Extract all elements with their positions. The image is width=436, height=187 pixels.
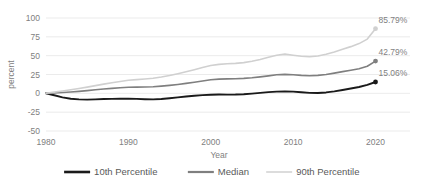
- x-axis-ticks: 19801990200020102020: [37, 137, 386, 147]
- series-end-marker-1: [373, 59, 378, 64]
- gridlines: [46, 18, 410, 131]
- series-line-0: [46, 82, 376, 100]
- y-tick-label: 0: [35, 88, 40, 98]
- series-data-label-1: 42.79%: [379, 47, 408, 57]
- y-tick-label: 100: [26, 13, 40, 23]
- x-tick-label: 2020: [366, 137, 385, 147]
- y-tick-label: -25: [28, 107, 41, 117]
- series-end-labels: 15.06%42.79%85.79%: [379, 15, 408, 78]
- y-tick-label: 50: [31, 51, 41, 61]
- series-data-label-2: 85.79%: [379, 15, 408, 25]
- chart-container: 1007550250-25-50 19801990200020102020 15…: [0, 0, 436, 187]
- y-axis-ticks: 1007550250-25-50: [26, 13, 40, 136]
- legend-label-0[interactable]: 10th Percentile: [94, 166, 157, 177]
- series-line-2: [46, 29, 376, 94]
- x-tick-label: 2000: [201, 137, 220, 147]
- series-lines: [46, 29, 376, 100]
- legend-label-2[interactable]: 90th Percentile: [296, 166, 359, 177]
- series-data-label-0: 15.06%: [379, 68, 408, 78]
- x-tick-label: 1980: [37, 137, 56, 147]
- series-end-marker-2: [373, 26, 378, 31]
- line-chart: 1007550250-25-50 19801990200020102020 15…: [0, 0, 436, 187]
- series-end-marker-0: [373, 80, 378, 85]
- x-tick-label: 2010: [284, 137, 303, 147]
- legend: 10th PercentileMedian90th Percentile: [64, 166, 359, 177]
- legend-label-1[interactable]: Median: [218, 166, 249, 177]
- y-tick-label: 75: [31, 32, 41, 42]
- x-axis-title: Year: [210, 150, 227, 160]
- x-tick-label: 1990: [119, 137, 138, 147]
- y-tick-label: -50: [28, 126, 41, 136]
- y-tick-label: 25: [31, 70, 41, 80]
- y-axis-title: percent: [6, 60, 16, 89]
